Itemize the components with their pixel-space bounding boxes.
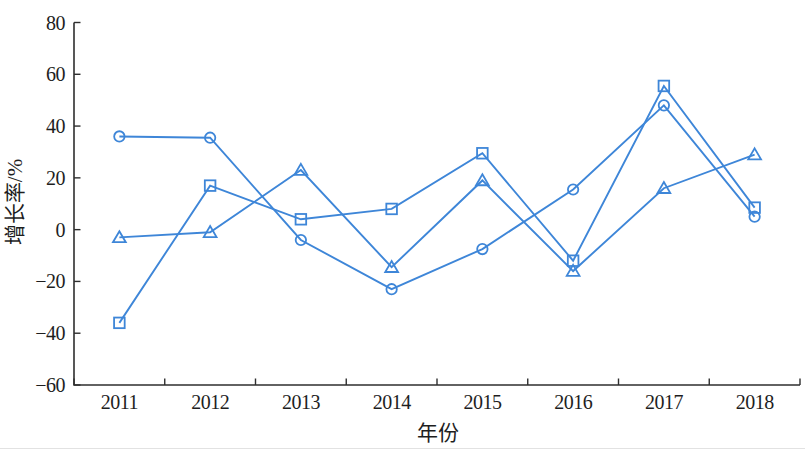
x-tick-label: 2013	[282, 391, 321, 413]
y-axis-label: 增长率/%	[3, 159, 27, 245]
x-tick-label: 2015	[463, 391, 502, 413]
series-square-line	[119, 86, 754, 323]
line-chart-canvas: 806040200−20−40−602011201220132014201520…	[0, 0, 805, 449]
series-circle-markers	[114, 100, 760, 294]
y-tick-label: −40	[35, 322, 65, 344]
data-series	[113, 81, 761, 329]
y-tick-label: −20	[35, 270, 65, 292]
x-tick-label: 2016	[554, 391, 593, 413]
growth-rate-line-chart: 806040200−20−40−602011201220132014201520…	[0, 0, 805, 449]
screenshot-root: 806040200−20−40−602011201220132014201520…	[0, 0, 805, 449]
axes	[74, 23, 800, 386]
x-tick-label: 2011	[101, 391, 138, 413]
y-tick-label: 80	[46, 12, 66, 34]
y-tick-label: 40	[46, 115, 66, 137]
x-tick-label: 2017	[645, 391, 684, 413]
tick-labels: 806040200−20−40−602011201220132014201520…	[35, 12, 774, 414]
y-tick-label: 20	[46, 167, 66, 189]
series-square-markers	[114, 81, 760, 329]
y-tick-label: 60	[46, 63, 66, 85]
x-axis-label: 年份	[417, 421, 459, 445]
series-triangle-line	[119, 155, 754, 272]
y-tick-label: 0	[56, 219, 66, 241]
x-tick-label: 2018	[736, 391, 775, 413]
y-tick-label: −60	[35, 374, 65, 396]
axis-spines	[74, 23, 800, 386]
x-tick-label: 2014	[373, 391, 412, 413]
series-triangle-markers	[113, 148, 761, 276]
x-tick-label: 2012	[191, 391, 229, 413]
series-circle-line	[119, 105, 754, 289]
triangle-marker	[748, 148, 761, 159]
